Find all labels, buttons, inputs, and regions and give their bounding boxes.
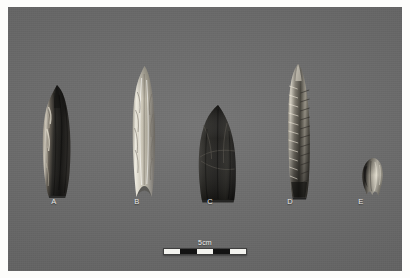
specimen-label-a: A (44, 197, 64, 206)
scale-segment-5 (230, 249, 246, 254)
specimen-label-c: C (200, 197, 220, 206)
specimen-label-d: D (280, 197, 300, 206)
photograph-field: A B C D E 5cm (8, 7, 402, 271)
specimen-d (280, 61, 322, 203)
scale-bar-label: 5cm (8, 239, 402, 246)
scale-bar-group: 5cm (8, 239, 402, 255)
scale-segment-4 (213, 249, 229, 254)
scale-segment-3 (197, 249, 213, 254)
scale-bar (163, 248, 247, 255)
specimen-a (38, 83, 78, 199)
specimen-b (125, 63, 165, 201)
specimen-label-e: E (351, 197, 371, 206)
scale-segment-2 (180, 249, 196, 254)
specimen-e (356, 155, 390, 201)
specimen-c (194, 103, 244, 203)
scale-segment-1 (164, 249, 180, 254)
figure-plate: A B C D E 5cm (0, 0, 410, 278)
specimen-label-b: B (127, 197, 147, 206)
